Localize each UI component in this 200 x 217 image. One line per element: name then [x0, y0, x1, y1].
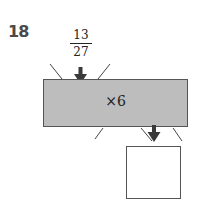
function-machine: ×6: [43, 79, 188, 127]
funnel-right-line: [98, 64, 110, 79]
funnel-left-line: [50, 64, 62, 79]
operation-label: ×6: [44, 93, 187, 109]
output-funnel-right-line: [141, 128, 152, 141]
output-funnel-left-line: [95, 128, 103, 139]
output-funnel-right-line-2: [173, 128, 182, 141]
answer-box[interactable]: [126, 146, 181, 199]
